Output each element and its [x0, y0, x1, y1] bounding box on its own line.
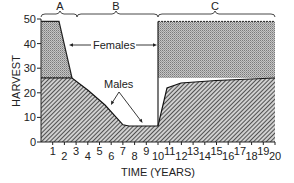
y-tick-40: 40 — [24, 38, 36, 50]
x-tick-10: 10 — [152, 150, 164, 162]
x-tick-13: 13 — [187, 145, 199, 157]
x-tick-14: 14 — [199, 150, 211, 162]
x-tick-1: 1 — [50, 145, 56, 157]
x-tick-4: 4 — [85, 150, 91, 162]
x-tick-19: 19 — [257, 145, 269, 157]
x-tick-11: 11 — [164, 145, 175, 157]
x-axis: 1 2 3 4 5 6 7 8 9 10 11 12 13 14 15 16 1… — [41, 142, 281, 178]
y-axis-title: HARVEST — [10, 55, 22, 107]
x-tick-20: 20 — [269, 150, 281, 162]
females-annotation: Females — [69, 39, 157, 51]
x-tick-12: 12 — [175, 150, 187, 162]
x-tick-8: 8 — [132, 150, 138, 162]
y-tick-30: 30 — [24, 62, 36, 74]
y-tick-10: 10 — [24, 111, 36, 123]
period-a-label: A — [56, 0, 64, 12]
x-tick-5: 5 — [96, 145, 102, 157]
x-tick-3: 3 — [73, 145, 79, 157]
y-tick-50: 50 — [24, 13, 36, 25]
x-tick-17: 17 — [234, 145, 246, 157]
x-axis-title: TIME (YEARS) — [121, 166, 195, 178]
males-label: Males — [104, 78, 134, 90]
x-tick-2: 2 — [61, 150, 67, 162]
x-tick-15: 15 — [210, 145, 222, 157]
y-tick-0: 0 — [30, 136, 36, 148]
y-axis: 0 10 20 30 40 50 HARVEST — [10, 13, 41, 148]
harvest-chart: 0 10 20 30 40 50 HARVEST — [0, 0, 294, 183]
x-tick-16: 16 — [222, 150, 234, 162]
x-tick-7: 7 — [120, 145, 126, 157]
y-tick-20: 20 — [24, 87, 36, 99]
x-tick-9: 9 — [143, 145, 149, 157]
period-b-label: B — [112, 0, 119, 12]
period-braces — [41, 11, 275, 17]
x-tick-6: 6 — [108, 150, 114, 162]
period-c-label: C — [211, 0, 219, 12]
x-tick-18: 18 — [245, 150, 257, 162]
females-label: Females — [93, 39, 136, 51]
